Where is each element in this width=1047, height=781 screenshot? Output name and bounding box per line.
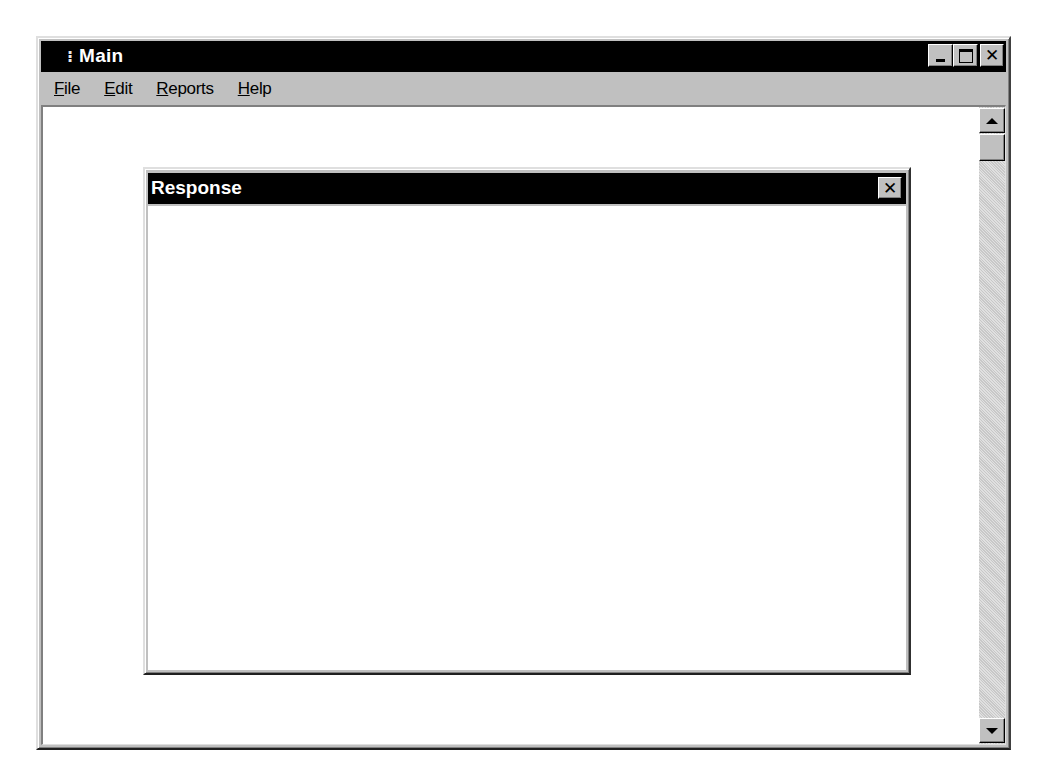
- menu-edit[interactable]: Edit: [104, 79, 132, 99]
- scroll-thumb[interactable]: [979, 134, 1005, 161]
- arrow-up-icon: [986, 118, 998, 124]
- maximize-button[interactable]: [953, 44, 978, 67]
- menu-reports-accelerator: R: [156, 79, 168, 98]
- menu-help-label: elp: [250, 79, 272, 98]
- minimize-icon: [936, 59, 945, 62]
- maximize-icon: [959, 49, 973, 63]
- response-title: Response: [151, 177, 242, 199]
- close-button[interactable]: ✕: [980, 44, 1004, 67]
- menu-reports[interactable]: Reports: [156, 79, 213, 99]
- menu-help[interactable]: Help: [238, 79, 272, 99]
- response-dialog: Response ✕: [143, 167, 911, 675]
- menu-bar: File Edit Reports Help: [41, 74, 1006, 103]
- system-menu-icon[interactable]: ⁝: [67, 47, 73, 66]
- scroll-up-button[interactable]: [979, 108, 1005, 133]
- scroll-down-button[interactable]: [979, 718, 1005, 743]
- response-title-bar[interactable]: Response ✕: [148, 173, 906, 204]
- menu-file[interactable]: File: [54, 79, 80, 99]
- menu-file-label: ile: [64, 79, 80, 98]
- vertical-scrollbar[interactable]: [979, 107, 1005, 744]
- close-icon: ✕: [883, 180, 897, 197]
- window-title: Main: [79, 45, 123, 67]
- menu-reports-label: eports: [168, 79, 213, 98]
- minimize-button[interactable]: [928, 44, 953, 67]
- response-close-button[interactable]: ✕: [878, 177, 902, 199]
- arrow-down-icon: [986, 728, 998, 734]
- menu-edit-label: dit: [115, 79, 132, 98]
- menu-help-accelerator: H: [238, 79, 250, 98]
- close-icon: ✕: [985, 47, 999, 64]
- menu-file-accelerator: F: [54, 79, 64, 98]
- response-body: [148, 206, 906, 670]
- main-title-bar[interactable]: ⁝ Main ✕: [41, 41, 1006, 72]
- menu-edit-accelerator: E: [104, 79, 115, 98]
